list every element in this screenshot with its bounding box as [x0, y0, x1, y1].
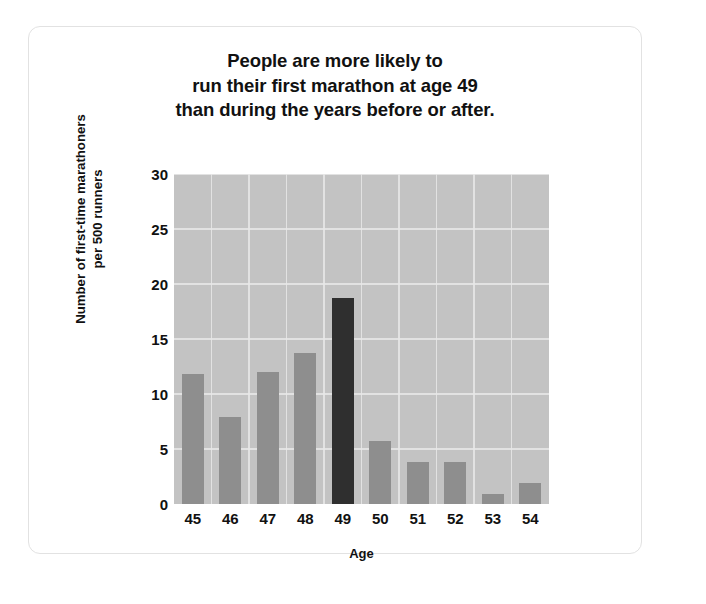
x-axis-tick-label-49: 49 [334, 510, 351, 527]
y-axis-tick-label: 5 [108, 441, 168, 458]
y-axis-tick-label: 10 [108, 386, 168, 403]
gridline-vertical [248, 174, 250, 504]
x-axis-tick-label-54: 54 [522, 510, 539, 527]
x-axis-tick-label-46: 46 [222, 510, 239, 527]
chart-title-line-2: run their first marathon at age 49 [29, 74, 641, 99]
x-axis-tick-label-51: 51 [409, 510, 426, 527]
bar-age-49 [332, 298, 354, 504]
gridline-vertical [361, 174, 363, 504]
bar-age-50 [369, 441, 391, 504]
gridline-vertical [323, 174, 325, 504]
bar-age-53 [482, 494, 504, 504]
bar-age-52 [444, 462, 466, 504]
x-axis-tick-label-52: 52 [447, 510, 464, 527]
x-axis-title: Age [174, 546, 549, 561]
bar-age-48 [294, 353, 316, 504]
bar-age-46 [219, 417, 241, 504]
gridline-vertical [511, 174, 513, 504]
x-axis-tick-label-50: 50 [372, 510, 389, 527]
bar-age-51 [407, 462, 429, 504]
x-axis-tick-label-48: 48 [297, 510, 314, 527]
y-axis-tick-label: 20 [108, 276, 168, 293]
bar-age-54 [519, 483, 541, 504]
x-axis-tick-label-53: 53 [484, 510, 501, 527]
x-axis-tick-label-47: 47 [259, 510, 276, 527]
gridline-vertical [436, 174, 438, 504]
chart-title-line-3: than during the years before or after. [29, 98, 641, 123]
gridline-vertical [473, 174, 475, 504]
y-axis-tick-label: 30 [108, 166, 168, 183]
plot-wrapper: 051015202530 45464748495051525354 Age [146, 174, 549, 504]
x-axis-tick-label-45: 45 [184, 510, 201, 527]
gridline-vertical [211, 174, 213, 504]
gridline-vertical [398, 174, 400, 504]
bar-age-47 [257, 372, 279, 504]
y-axis-tick-label: 0 [108, 496, 168, 513]
bar-age-45 [182, 374, 204, 504]
y-axis-title-line-1: Number of first-time marathoners [73, 59, 90, 379]
y-axis-tick-label: 15 [108, 331, 168, 348]
chart-title-line-1: People are more likely to [29, 49, 641, 74]
plot-area [174, 174, 549, 504]
y-axis-tick-label: 25 [108, 221, 168, 238]
chart-card: People are more likely to run their firs… [28, 26, 642, 554]
y-axis-title: Number of first-time marathoners per 500… [73, 59, 113, 379]
y-axis-title-line-2: per 500 runners [90, 59, 107, 379]
chart-title: People are more likely to run their firs… [29, 49, 641, 123]
gridline-vertical [286, 174, 288, 504]
